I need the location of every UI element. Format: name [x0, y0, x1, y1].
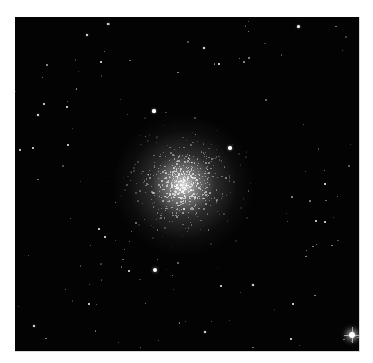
faint-star [305, 171, 306, 172]
cluster-star [164, 227, 165, 228]
faint-star [126, 184, 128, 186]
faint-star [343, 339, 344, 340]
faint-star [248, 31, 249, 32]
cluster-star [245, 156, 247, 158]
cluster-star [177, 172, 178, 173]
cluster-star [181, 197, 182, 198]
cluster-star [246, 151, 248, 153]
faint-star [109, 23, 111, 25]
faint-star [312, 246, 314, 248]
cluster-star [140, 135, 141, 136]
faint-star [37, 179, 39, 181]
faint-star [245, 25, 247, 27]
bright-star [152, 109, 155, 112]
cluster-star [238, 153, 239, 154]
cluster-star [176, 176, 178, 178]
faint-star [264, 43, 265, 44]
faint-star [291, 196, 293, 198]
cluster-star [206, 156, 207, 157]
cluster-star [193, 182, 194, 183]
cluster-star [162, 184, 163, 185]
bright-star [228, 146, 232, 150]
cluster-star [152, 237, 154, 239]
cluster-star [130, 171, 131, 172]
bright-star [67, 144, 69, 146]
cluster-star [153, 175, 154, 176]
cluster-star [203, 208, 205, 210]
cluster-star [203, 198, 204, 199]
cluster-star [176, 209, 177, 210]
cluster-star [212, 176, 213, 177]
faint-star [70, 218, 71, 219]
cluster-star [142, 203, 143, 204]
cluster-star [208, 162, 210, 164]
faint-star [129, 60, 130, 61]
cluster-star [135, 192, 136, 193]
cluster-star [218, 156, 219, 157]
faint-star [286, 213, 287, 214]
cluster-star [176, 216, 178, 218]
bright-star [204, 331, 207, 334]
cluster-star [178, 205, 179, 206]
cluster-star [216, 199, 217, 200]
cluster-star [165, 170, 166, 171]
faint-star [303, 124, 304, 125]
cluster-star [176, 184, 178, 186]
cluster-star [205, 162, 207, 164]
cluster-star [194, 196, 196, 198]
faint-star [314, 295, 315, 296]
cluster-star [123, 177, 124, 178]
bright-star [252, 284, 255, 287]
faint-star [89, 284, 91, 286]
cluster-star [179, 197, 180, 198]
cluster-star [167, 181, 169, 183]
faint-star [173, 289, 174, 290]
cluster-star [208, 172, 210, 174]
cluster-star [210, 168, 211, 169]
faint-star [115, 240, 116, 241]
faint-star [75, 59, 76, 60]
bright-star [107, 23, 110, 26]
cluster-star [147, 174, 148, 175]
faint-star [80, 265, 82, 267]
faint-star [78, 71, 79, 72]
faint-star [248, 21, 249, 22]
cluster-star [195, 175, 196, 176]
faint-star [101, 75, 103, 77]
cluster-star [158, 178, 159, 179]
faint-star [177, 72, 178, 73]
bright-star [324, 221, 326, 223]
faint-star [101, 279, 102, 280]
cluster-star [202, 176, 203, 177]
cluster-star [222, 196, 223, 197]
bright-star [32, 147, 34, 149]
faint-star [335, 26, 337, 28]
cluster-star [166, 185, 167, 186]
cluster-star [208, 148, 209, 149]
cluster-star [179, 193, 180, 194]
faint-star [15, 91, 16, 92]
cluster-star [184, 195, 185, 196]
star-field-image [15, 17, 360, 352]
faint-star [46, 64, 47, 65]
faint-star [179, 322, 180, 323]
bright-star [100, 61, 102, 63]
faint-star [177, 262, 179, 264]
cluster-star [162, 200, 164, 202]
cluster-star [191, 162, 192, 163]
cluster-star [207, 196, 208, 197]
cluster-star [189, 158, 190, 159]
faint-star [145, 303, 146, 304]
cluster-star [214, 198, 215, 199]
cluster-star [213, 165, 214, 166]
bright-star [104, 236, 106, 238]
faint-star [318, 148, 320, 150]
faint-star [187, 41, 189, 43]
cluster-star [183, 147, 184, 148]
cluster-star [178, 181, 180, 183]
faint-star [281, 54, 282, 55]
cluster-star [190, 208, 192, 210]
cluster-star [204, 154, 205, 155]
bright-star [292, 303, 294, 305]
cluster-star [182, 187, 184, 189]
